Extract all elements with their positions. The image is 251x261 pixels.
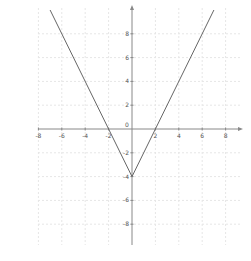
- x-tick-label: 4: [177, 132, 181, 139]
- coordinate-plane: -8-6-4-22468 8642-2-4-6-8 0: [0, 0, 251, 261]
- y-tick-label: -8: [123, 220, 129, 227]
- x-tick-label: 2: [153, 132, 157, 139]
- x-tick-label: -8: [35, 132, 41, 139]
- y-tick-label: 8: [125, 30, 129, 37]
- x-tick-label: -6: [59, 132, 65, 139]
- x-tick-label: 8: [224, 132, 228, 139]
- y-tick-label: 4: [125, 77, 129, 84]
- origin-label: 0: [125, 121, 129, 128]
- grid-lines: [38, 8, 240, 245]
- axes: [38, 5, 243, 245]
- y-tick-label: -4: [123, 173, 129, 180]
- y-tick-label: -2: [123, 149, 129, 156]
- x-tick-label: -4: [82, 132, 88, 139]
- y-tick-label: -6: [123, 196, 129, 203]
- y-axis-arrow-icon: [130, 5, 134, 10]
- y-tick-label: 6: [125, 54, 129, 61]
- x-tick-label: 6: [200, 132, 204, 139]
- y-tick-label: 2: [125, 101, 129, 108]
- x-axis-arrow-icon: [238, 127, 243, 131]
